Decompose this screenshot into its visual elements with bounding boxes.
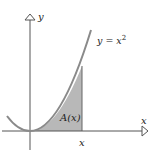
x-axis-label: x	[141, 115, 147, 126]
area-under-curve-diagram: y x x A(x) y = x2	[0, 0, 152, 156]
y-axis-label: y	[37, 11, 44, 22]
curve-label-exponent: 2	[122, 34, 126, 42]
area-label: A(x)	[59, 112, 81, 123]
x-axis-arrow-icon	[142, 126, 148, 136]
curve-label-base: y = x	[96, 35, 122, 46]
y-axis-arrow-icon	[25, 14, 35, 20]
x-tick-label: x	[79, 137, 85, 148]
curve-label: y = x2	[96, 34, 126, 46]
